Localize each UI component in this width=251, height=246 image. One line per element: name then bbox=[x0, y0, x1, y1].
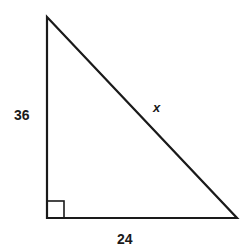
right-angle-marker bbox=[47, 201, 64, 218]
right-triangle-diagram bbox=[0, 0, 251, 246]
horizontal-leg-label: 24 bbox=[117, 232, 133, 246]
hypotenuse-label: x bbox=[153, 101, 160, 114]
triangle-outline bbox=[47, 17, 237, 218]
vertical-leg-label: 36 bbox=[14, 108, 30, 122]
